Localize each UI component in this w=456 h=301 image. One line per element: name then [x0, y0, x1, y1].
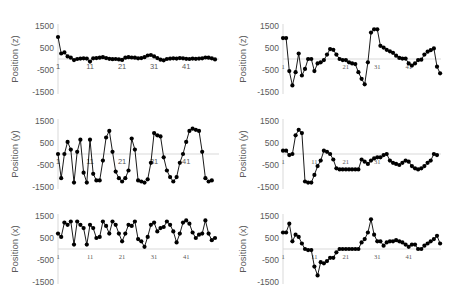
data-point: [184, 140, 188, 144]
y-tick-label: -500: [37, 255, 54, 265]
data-point: [91, 226, 95, 230]
data-point: [85, 243, 89, 247]
chart-z-left: 1500500-500-1500111213141Position (z): [0, 0, 228, 100]
data-point: [413, 243, 417, 247]
data-point: [297, 51, 301, 55]
x-tick-label: 1: [281, 253, 284, 260]
data-point: [162, 155, 166, 159]
chart-y-right: 1500500-500-15001112131Position (y): [228, 100, 456, 200]
data-point: [191, 230, 195, 234]
y-tick-label: -1500: [257, 87, 279, 97]
y-axis-title: Position (z): [237, 35, 248, 83]
data-point: [123, 232, 127, 236]
data-point: [360, 77, 364, 81]
x-tick-label: 21: [343, 253, 350, 260]
data-point: [356, 167, 360, 171]
data-point: [432, 46, 436, 50]
data-point: [435, 234, 439, 238]
data-point: [200, 150, 204, 154]
x-tick-label: 41: [405, 253, 412, 260]
y-tick-label: -500: [262, 255, 279, 265]
data-point: [325, 53, 329, 57]
data-point: [158, 134, 162, 138]
y-tick-label: 1500: [260, 116, 279, 126]
data-point: [175, 240, 179, 244]
y-tick-label: -1500: [257, 182, 279, 192]
data-point: [126, 168, 130, 172]
x-tick-label: 31: [374, 63, 381, 70]
data-point: [322, 58, 326, 62]
data-point: [331, 157, 335, 161]
chart-x-left: 1500500-500-1500111213141Position (x): [0, 200, 228, 300]
data-point: [117, 176, 121, 180]
data-point: [107, 232, 111, 236]
y-tick-label: -500: [37, 160, 54, 170]
data-point: [438, 71, 442, 75]
data-point: [312, 173, 316, 177]
x-tick-label: 11: [87, 253, 93, 260]
data-point: [130, 137, 134, 141]
data-point: [91, 172, 95, 176]
x-tick-label: 31: [374, 253, 381, 260]
data-point: [72, 181, 76, 185]
data-point: [300, 73, 304, 77]
data-point: [66, 223, 70, 227]
x-tick-label: 21: [343, 158, 350, 165]
x-tick-label: 41: [182, 157, 190, 166]
data-point: [435, 65, 439, 69]
data-point: [213, 236, 217, 240]
data-point: [168, 175, 172, 179]
data-point: [85, 181, 89, 185]
y-tick-label: -500: [262, 65, 279, 75]
data-point: [309, 248, 313, 252]
data-point: [303, 67, 307, 71]
x-tick-label: 1: [281, 158, 284, 165]
data-point: [207, 232, 211, 236]
data-point: [165, 168, 169, 172]
data-point: [316, 273, 320, 277]
data-point: [171, 229, 175, 233]
data-point: [187, 222, 191, 226]
y-tick-label: 1500: [35, 211, 54, 221]
data-point: [309, 57, 313, 61]
data-point: [98, 235, 102, 239]
y-tick-label: 500: [265, 138, 279, 148]
data-point: [75, 219, 79, 223]
data-point: [101, 219, 105, 223]
y-axis-title: Position (z): [9, 35, 20, 83]
data-point: [300, 241, 304, 245]
data-point: [422, 53, 426, 57]
data-point: [101, 159, 105, 163]
data-point: [181, 152, 185, 156]
data-point: [146, 235, 150, 239]
data-point: [378, 239, 382, 243]
data-point: [110, 150, 114, 154]
data-point: [391, 51, 395, 55]
data-point: [114, 170, 118, 174]
data-point: [284, 230, 288, 234]
data-point: [56, 232, 60, 236]
data-point: [162, 225, 166, 229]
data-point: [165, 219, 169, 223]
data-point: [139, 239, 143, 243]
y-tick-label: -1500: [257, 277, 279, 287]
data-point: [78, 138, 82, 142]
data-point: [213, 57, 217, 61]
data-point: [334, 53, 338, 57]
data-point: [284, 149, 288, 153]
data-point: [210, 178, 214, 182]
series-line: [283, 130, 437, 183]
data-point: [171, 179, 175, 183]
data-point: [142, 181, 146, 185]
data-point: [62, 50, 66, 54]
data-point: [297, 128, 301, 132]
data-point: [435, 153, 439, 157]
data-point: [110, 219, 114, 223]
data-point: [59, 235, 63, 239]
data-point: [69, 148, 73, 152]
x-tick-label: 41: [182, 62, 190, 71]
data-point: [297, 235, 301, 239]
data-point: [155, 229, 159, 233]
data-point: [114, 223, 118, 227]
data-point: [366, 162, 370, 166]
